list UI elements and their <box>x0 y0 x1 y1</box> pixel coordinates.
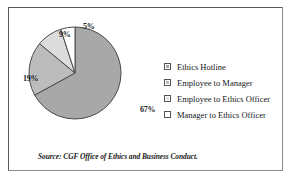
legend-swatch-icon <box>164 79 171 86</box>
legend-label: Employee to Manager <box>177 78 253 88</box>
chart-frame: 67% 19% 9% 5% Ethics Hotline Employee to… <box>8 7 283 171</box>
pie-value-label-employee-to-manager: 19% <box>23 74 38 83</box>
legend-swatch-icon <box>164 63 171 70</box>
legend-item-manager-to-ethics-officer[interactable]: Manager to Ethics Officer <box>164 108 282 121</box>
legend-item-ethics-hotline[interactable]: Ethics Hotline <box>164 60 282 73</box>
pie-value-label-employee-to-ethics-officer: 9% <box>59 30 71 39</box>
legend-item-employee-to-manager[interactable]: Employee to Manager <box>164 76 282 89</box>
legend-swatch-icon <box>164 111 171 118</box>
legend-label: Employee to Ethics Officer <box>177 94 270 104</box>
legend-label: Ethics Hotline <box>177 62 226 72</box>
chart-legend: Ethics Hotline Employee to Manager Emplo… <box>164 60 282 124</box>
pie-value-label-manager-to-ethics-officer: 5% <box>83 22 95 31</box>
pie-svg <box>23 21 127 125</box>
legend-label: Manager to Ethics Officer <box>177 110 266 120</box>
plot-area: 67% 19% 9% 5% Ethics Hotline Employee to… <box>9 8 282 170</box>
source-note: Source: CGF Office of Ethics and Busines… <box>38 152 198 161</box>
legend-item-employee-to-ethics-officer[interactable]: Employee to Ethics Officer <box>164 92 282 105</box>
pie-chart <box>23 21 127 125</box>
legend-swatch-icon <box>164 95 171 102</box>
pie-value-label-ethics-hotline: 67% <box>140 105 155 114</box>
